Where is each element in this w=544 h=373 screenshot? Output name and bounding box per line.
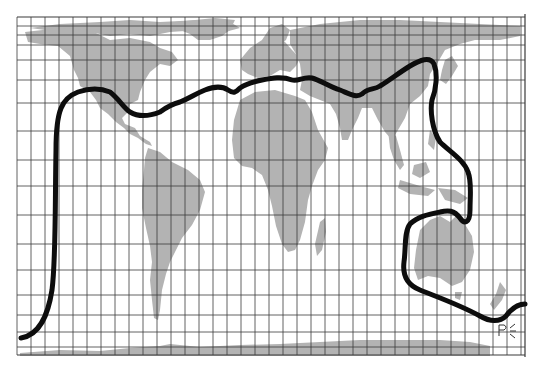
indonesia <box>398 180 435 196</box>
world-map <box>0 0 544 373</box>
new-guinea <box>438 188 468 204</box>
southeast-asia <box>388 130 404 170</box>
signature-pe <box>499 324 516 338</box>
tasmania <box>455 292 462 300</box>
borneo <box>412 162 430 178</box>
landmasses <box>20 18 520 356</box>
africa <box>232 90 328 252</box>
greenland <box>175 18 235 40</box>
south-america <box>142 148 205 320</box>
new-zealand <box>490 282 506 310</box>
madagascar <box>315 218 326 256</box>
north-america <box>25 28 178 146</box>
